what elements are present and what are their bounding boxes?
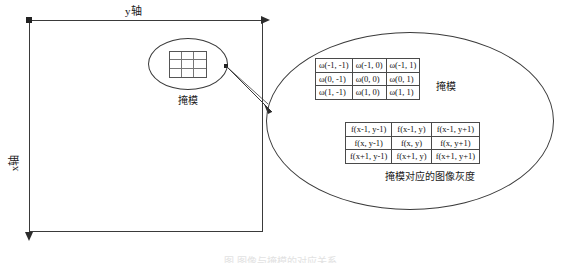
table-row: f(x+1, y-1) f(x+1, y) f(x+1, y+1) (346, 150, 480, 164)
y-axis-arrow-icon (261, 16, 270, 24)
gray-cell: f(x-1, y-1) (346, 123, 392, 137)
mask-cell: ω(1, 1) (386, 86, 420, 100)
table-row: ω(0, -1) ω(0, 0) ω(0, 1) (316, 72, 420, 86)
mask-cell: ω(1, 0) (352, 86, 386, 100)
gray-cell: f(x, y) (392, 136, 431, 150)
image-gray-level-matrix: f(x-1, y-1) f(x-1, y) f(x-1, y+1) f(x, y… (345, 122, 480, 164)
mask-mini-grid-cell (170, 69, 182, 77)
table-row: f(x-1, y-1) f(x-1, y) f(x-1, y+1) (346, 123, 480, 137)
mask-cell: ω(-1, 0) (352, 59, 386, 73)
y-axis-label-text: y轴 (125, 5, 142, 17)
gray-cell: f(x+1, y-1) (346, 150, 392, 164)
gray-cell: f(x-1, y) (392, 123, 431, 137)
mask-mini-grid-cell (182, 60, 194, 68)
mask-mini-grid-cell (182, 52, 194, 60)
image-plane-rectangle (29, 20, 263, 232)
y-axis-label: y轴 (125, 2, 142, 18)
callout-anchor-dot (224, 64, 228, 68)
mask-mini-grid (169, 51, 207, 78)
x-axis-label: x轴 (5, 148, 21, 178)
mask-mini-grid-cell (182, 69, 194, 77)
mask-cell: ω(0, 1) (386, 72, 420, 86)
mask-mini-grid-cell (194, 52, 206, 60)
gray-cell: f(x, y+1) (431, 136, 479, 150)
table-row: ω(1, -1) ω(1, 0) ω(1, 1) (316, 86, 420, 100)
gray-cell: f(x+1, y) (392, 150, 431, 164)
mask-mini-grid-cell (194, 60, 206, 68)
mask-callout-label: 掩模 (150, 92, 226, 107)
mask-cell: ω(0, 0) (352, 72, 386, 86)
x-axis-arrow-icon (25, 232, 33, 241)
mask-matrix-label: 掩模 (436, 78, 456, 93)
mask-mini-grid-cell (170, 60, 182, 68)
gray-cell: f(x-1, y+1) (431, 123, 479, 137)
mask-cell: ω(1, -1) (316, 86, 353, 100)
figure-caption: 图 图像与掩模的对应关系 (0, 253, 561, 263)
mask-coefficient-matrix: ω(-1, -1) ω(-1, 0) ω(-1, 1) ω(0, -1) ω(0… (315, 58, 420, 100)
x-axis-label-text: x轴 (8, 155, 20, 172)
figure-canvas: y轴 x轴 掩模 ω(-1, -1) ω(-1, 0) ω(-1, 1) (0, 0, 561, 263)
gray-cell: f(x, y-1) (346, 136, 392, 150)
mask-mini-grid-cell (170, 52, 182, 60)
mask-cell: ω(-1, 1) (386, 59, 420, 73)
table-row: f(x, y-1) f(x, y) f(x, y+1) (346, 136, 480, 150)
mask-cell: ω(0, -1) (316, 72, 353, 86)
gray-matrix-caption: 掩模对应的图像灰度 (345, 168, 515, 183)
table-row: ω(-1, -1) ω(-1, 0) ω(-1, 1) (316, 59, 420, 73)
origin-dot (26, 17, 32, 23)
mask-mini-grid-cell (194, 69, 206, 77)
mask-cell: ω(-1, -1) (316, 59, 353, 73)
gray-cell: f(x+1, y+1) (431, 150, 479, 164)
